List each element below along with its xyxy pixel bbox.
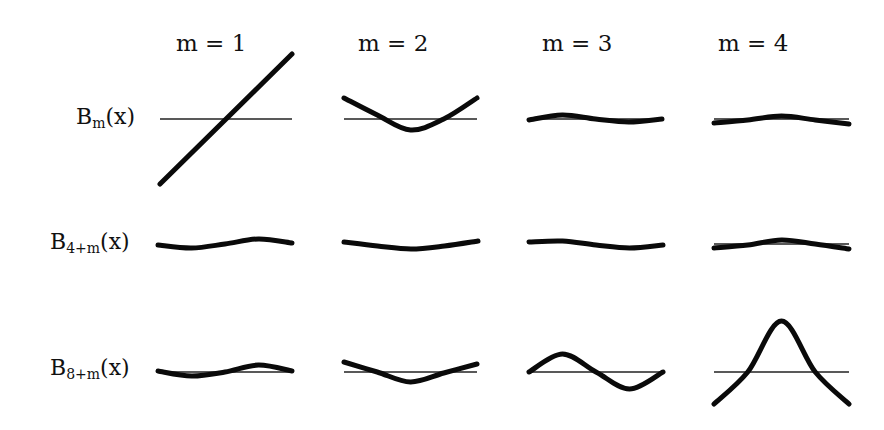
plot-cell-r3-m4 bbox=[714, 321, 849, 404]
plot-cell-r3-m3 bbox=[529, 354, 663, 389]
row-label-arg: (x) bbox=[100, 355, 130, 380]
curve bbox=[344, 98, 477, 130]
plot-cell-r2-m1 bbox=[158, 239, 292, 248]
plot-cell-r3-m2 bbox=[344, 362, 477, 382]
row-label-base: B bbox=[50, 229, 66, 254]
plot-cell-r2-m4 bbox=[714, 240, 849, 249]
row-label-arg: (x) bbox=[100, 229, 130, 254]
plot-cell-r2-m3 bbox=[529, 241, 663, 248]
plot-cell-r1-m1 bbox=[160, 54, 292, 184]
row-label-base: B bbox=[76, 104, 92, 129]
plot-cell-r2-m2 bbox=[344, 241, 478, 249]
curve bbox=[529, 241, 663, 248]
plot-cell-r1-m4 bbox=[714, 116, 849, 124]
row-label-b-8-plus-m: B8+m(x) bbox=[50, 355, 130, 382]
curve bbox=[344, 241, 478, 249]
column-header-m4: m = 4 bbox=[718, 30, 788, 56]
row-label-arg: (x) bbox=[105, 104, 135, 129]
row-label-b-m: Bm(x) bbox=[76, 104, 135, 131]
plot-cell-r1-m2 bbox=[344, 98, 477, 130]
curve bbox=[714, 321, 849, 404]
plot-cell-r1-m3 bbox=[529, 115, 662, 122]
column-header-m2: m = 2 bbox=[358, 30, 428, 56]
column-header-m3: m = 3 bbox=[542, 30, 612, 56]
column-header-m1: m = 1 bbox=[176, 30, 246, 56]
curve bbox=[158, 365, 292, 376]
plots-canvas bbox=[0, 0, 884, 430]
row-label-subscript: 8+m bbox=[66, 366, 100, 382]
row-label-subscript: 4+m bbox=[66, 240, 100, 256]
curve bbox=[158, 239, 292, 248]
row-label-base: B bbox=[50, 355, 66, 380]
plot-cell-r3-m1 bbox=[158, 365, 292, 376]
row-label-b-4-plus-m: B4+m(x) bbox=[50, 229, 130, 256]
row-label-subscript: m bbox=[92, 115, 105, 131]
curve bbox=[714, 116, 849, 124]
